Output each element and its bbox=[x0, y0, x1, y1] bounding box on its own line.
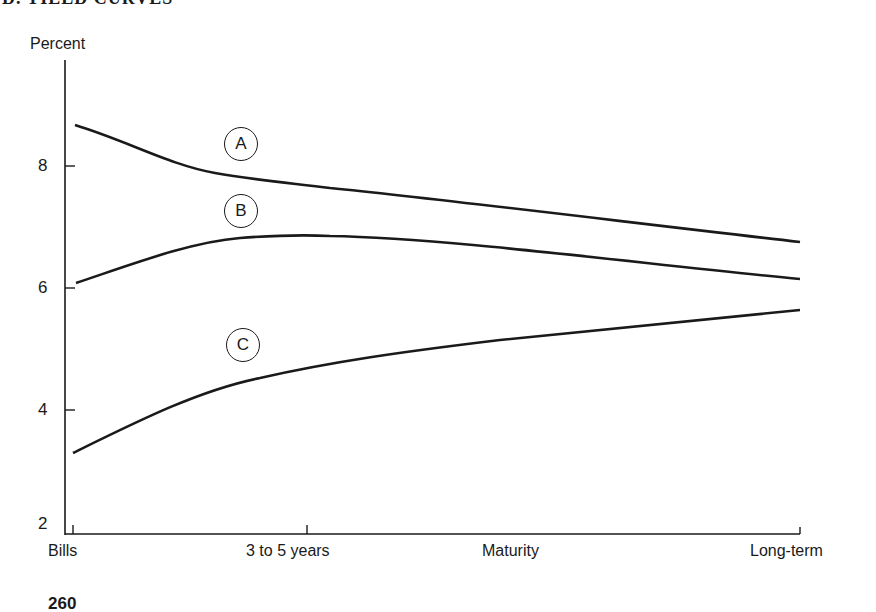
curve-label-c: C bbox=[226, 328, 260, 362]
chart-plot bbox=[0, 0, 876, 612]
x-axis-title-maturity: Maturity bbox=[482, 542, 539, 560]
x-tick-3-to-5-years: 3 to 5 years bbox=[246, 542, 330, 560]
page-number: 260 bbox=[48, 594, 76, 612]
curve-a bbox=[75, 125, 800, 242]
curve-label-b: B bbox=[224, 194, 258, 228]
curve-c bbox=[73, 310, 800, 453]
x-tick-bills: Bills bbox=[48, 542, 77, 560]
x-tick-long-term: Long-term bbox=[750, 542, 823, 560]
curve-b bbox=[76, 235, 800, 283]
curve-label-a: A bbox=[224, 127, 258, 161]
